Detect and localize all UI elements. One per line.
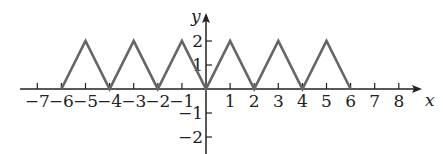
x-tick-label: 8 (393, 91, 404, 111)
x-tick-label: −7 (25, 91, 50, 111)
y-axis-label: y (190, 6, 201, 26)
triangle-wave-graph: −7−6−5−4−3−2−112345678−2−112xy (0, 0, 443, 154)
x-tick-label: −4 (97, 91, 122, 111)
y-tick-label: −2 (178, 127, 203, 147)
x-tick-label: −6 (49, 91, 74, 111)
x-tick-label: 6 (345, 91, 356, 111)
x-tick-label: −2 (145, 91, 170, 111)
x-tick-label: −3 (121, 91, 146, 111)
x-tick-label: 1 (225, 91, 236, 111)
x-tick-label: 2 (249, 91, 260, 111)
x-axis-label: x (425, 90, 435, 110)
x-tick-label: 7 (369, 91, 380, 111)
x-tick-label: 5 (321, 91, 332, 111)
x-tick-label: −5 (73, 91, 98, 111)
x-tick-label: 4 (297, 91, 308, 111)
x-tick-label: 3 (273, 91, 284, 111)
y-tick-label: −1 (178, 103, 203, 123)
y-tick-label: 2 (192, 31, 203, 51)
